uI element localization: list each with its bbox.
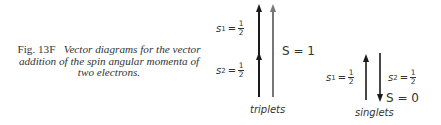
singlets-label: singlets: [355, 107, 394, 118]
triplets-label: triplets: [250, 104, 285, 115]
s1-arrowhead-icon: [256, 4, 262, 12]
singlet-s2-label: s2 = 12: [388, 69, 416, 86]
total-arrowhead-icon: [270, 4, 276, 12]
triplet-s2-label: s2 = 12: [216, 62, 244, 79]
triplet-s1-label: s1 = 12: [216, 20, 244, 37]
s2-singlet-arrowhead-icon: [377, 94, 383, 102]
singlet-s1-label: s1 = 12: [326, 69, 354, 86]
singlet-total-label: S = 0: [386, 91, 419, 105]
triplet-total-label: S = 1: [282, 44, 315, 58]
s1-singlet-arrowhead-icon: [363, 54, 369, 62]
